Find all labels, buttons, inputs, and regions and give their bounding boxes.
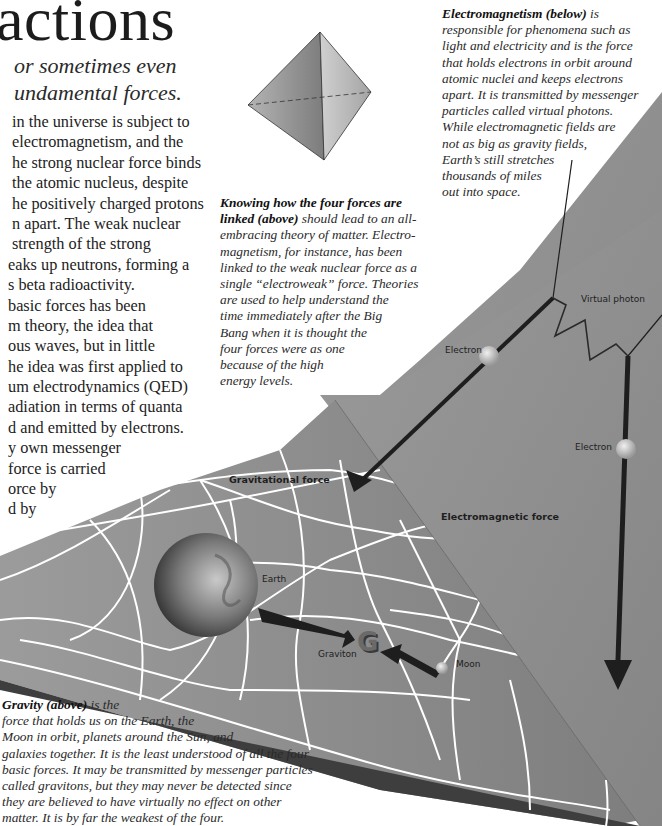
caption-bold: linked (above) <box>220 211 298 226</box>
body-line: d and emitted by electrons. <box>0 418 204 438</box>
caption-line: linked to the weak nuclear force as a <box>220 260 418 276</box>
caption-line: time immediately after the Big <box>220 308 418 324</box>
body-line: um electrodynamics (QED) <box>0 377 204 397</box>
caption-line: are used to help understand the <box>220 292 418 308</box>
body-line: the atomic nucleus, despite <box>0 173 204 193</box>
caption-gravity: Gravity (above) is the force that holds … <box>2 697 313 826</box>
caption-bold: Electromagnetism (below) <box>442 6 587 21</box>
caption-line: because of the high <box>220 357 418 373</box>
caption-line: particles called virtual photons. <box>442 103 638 119</box>
intro-line: or sometimes even <box>0 52 182 79</box>
label-electron-2: Electron <box>575 442 612 452</box>
caption-line: magnetism, for instance, has been <box>220 244 418 260</box>
electron-sphere-2 <box>616 439 636 459</box>
caption-line: galaxies together. It is the least under… <box>2 746 313 762</box>
label-moon: Moon <box>456 659 480 669</box>
body-line: he strong nuclear force binds <box>0 153 204 173</box>
caption-text: is the <box>87 697 119 712</box>
caption-line: Earth’s still stretches <box>442 152 638 168</box>
caption-bold: Gravity (above) <box>2 697 87 712</box>
caption-line: While electromagnetic fields are <box>442 119 638 135</box>
caption-electromagnetism: Electromagnetism (below) is responsible … <box>442 6 638 200</box>
caption-line: out into space. <box>442 184 638 200</box>
label-electron-1: Electron <box>445 345 482 355</box>
caption-line: energy levels. <box>220 373 418 389</box>
body-line: in the universe is subject to <box>0 112 204 132</box>
caption-line: they are believed to have virtually no e… <box>2 794 313 810</box>
caption-text: is <box>587 6 599 21</box>
label-gravitational-force: Gravitational force <box>229 474 330 485</box>
caption-line: that holds electrons in orbit around <box>442 55 638 71</box>
caption-line: Moon in orbit, planets around the Sun, a… <box>2 729 313 745</box>
caption-line: called gravitons, but they may never be … <box>2 778 313 794</box>
page-title: actions <box>0 0 175 55</box>
body-line: y own messenger <box>0 438 204 458</box>
caption-line: Bang when it is thought the <box>220 325 418 341</box>
caption-line: responsible for phenomena such as <box>442 22 638 38</box>
body-line: n apart. The weak nuclear <box>0 214 204 234</box>
caption-line: apart. It is transmitted by messenger <box>442 87 638 103</box>
caption-line: not as big as gravity fields, <box>442 136 638 152</box>
label-graviton: Graviton <box>318 649 357 659</box>
body-line: electromagnetism, and the <box>0 132 204 152</box>
body-line: force is carried <box>0 459 204 479</box>
body-line: strength of the strong <box>0 234 204 254</box>
caption-line: four forces were as one <box>220 341 418 357</box>
body-line: d by <box>0 499 204 519</box>
body-text: in the universe is subject to electromag… <box>0 112 204 520</box>
body-line: he positively charged protons <box>0 194 204 214</box>
caption-text: should lead to an all- <box>298 211 416 226</box>
caption-bold: Knowing how the four forces are <box>220 195 402 210</box>
label-earth: Earth <box>262 574 286 584</box>
caption-line: basic forces. It may be transmitted by m… <box>2 762 313 778</box>
caption-forces-linked: Knowing how the four forces are linked (… <box>220 195 418 389</box>
caption-line: thousands of miles <box>442 168 638 184</box>
label-electromagnetic-force: Electromagnetic force <box>441 511 559 522</box>
caption-line: embracing theory of matter. Electro- <box>220 227 418 243</box>
label-virtual-photon: Virtual photon <box>581 294 645 304</box>
body-line: eaks up neutrons, forming a <box>0 255 204 275</box>
body-line: ous waves, but in little <box>0 336 204 356</box>
caption-line: light and electricity and is the force <box>442 38 638 54</box>
moon-sphere <box>436 662 448 674</box>
intro-text: or sometimes even undamental forces. <box>0 52 182 106</box>
body-line: m theory, the idea that <box>0 316 204 336</box>
body-line: adiation in terms of quanta <box>0 397 204 417</box>
body-line: orce by <box>0 479 204 499</box>
tetrahedron-icon <box>248 32 371 160</box>
body-line: s beta radioactivity. <box>0 275 204 295</box>
caption-line: force that holds us on the Earth, the <box>2 713 313 729</box>
graviton-icon: G <box>357 627 378 657</box>
caption-line: atomic nuclei and keeps electrons <box>442 71 638 87</box>
caption-line: matter. It is by far the weakest of the … <box>2 810 313 826</box>
body-line: basic forces has been <box>0 296 204 316</box>
intro-line: undamental forces. <box>0 79 182 106</box>
earth-globe <box>154 533 258 637</box>
electron-sphere-1 <box>479 346 499 366</box>
body-line: he idea was first applied to <box>0 357 204 377</box>
caption-line: single “electroweak” force. Theories <box>220 276 418 292</box>
